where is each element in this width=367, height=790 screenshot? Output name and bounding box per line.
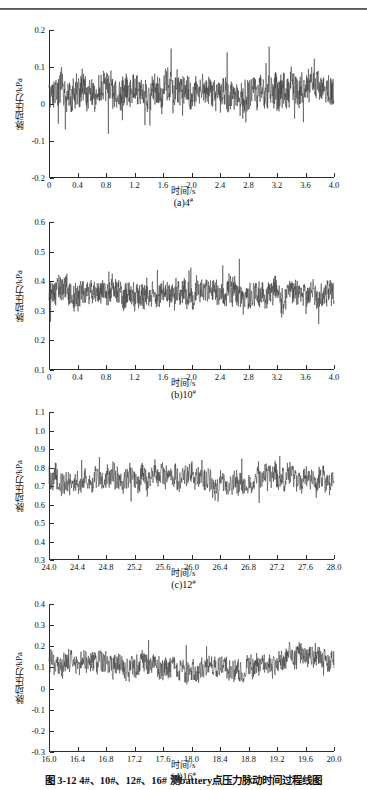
y-tick-label: -0.1 — [5, 706, 45, 715]
plot-area-d — [49, 604, 334, 752]
figure-caption: 图 3-12 4#、10#、12#、16# 测battery点压力脉动时间过程线… — [0, 772, 367, 790]
figure-page: 0.20.10-0.1-0.200.40.81.21.62.02.42.83.2… — [0, 0, 367, 790]
x-tick — [334, 747, 335, 751]
y-tick-label: 0.2 — [5, 642, 45, 651]
y-tick-label: 0 — [5, 685, 45, 694]
y-axis-title: 脉动压力/kPa — [12, 652, 25, 704]
chart-panel-d: 0.40.30.20.10-0.1-0.2-0.316.016.416.817.… — [0, 0, 367, 790]
y-tick-label: 0.3 — [5, 621, 45, 630]
y-tick-label: 0.1 — [5, 663, 45, 672]
y-tick-label: 0.4 — [5, 600, 45, 609]
y-tick — [50, 752, 54, 753]
y-tick-label: -0.2 — [5, 727, 45, 736]
series-line-d — [49, 604, 334, 752]
